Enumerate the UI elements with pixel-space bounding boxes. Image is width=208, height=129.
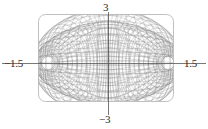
axis-label-bottom: −3 bbox=[99, 113, 110, 125]
figure-container: 3 −3 −1.5 1.5 bbox=[0, 0, 208, 129]
axis-label-top: 3 bbox=[103, 1, 108, 13]
parametric-surface-plot bbox=[0, 0, 208, 129]
axis-label-left: −1.5 bbox=[4, 57, 23, 69]
axis-label-right: 1.5 bbox=[184, 57, 197, 69]
